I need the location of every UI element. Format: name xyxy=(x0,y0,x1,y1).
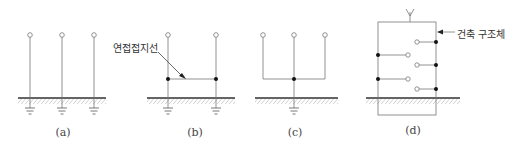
panel-b xyxy=(147,33,235,114)
grounding-diagram xyxy=(0,0,514,150)
panel-a-caption: (a) xyxy=(55,126,70,139)
connecting-ground-wire-label: 연접접지선 xyxy=(113,40,158,55)
building-structure-label: 건축 구조체 xyxy=(457,26,505,41)
panel-c xyxy=(255,33,338,114)
panel-b-caption: (b) xyxy=(187,126,203,139)
panel-d-caption: (d) xyxy=(405,124,421,137)
panel-c-caption: (c) xyxy=(288,126,303,139)
panel-d xyxy=(366,9,460,115)
panel-a xyxy=(18,33,106,114)
